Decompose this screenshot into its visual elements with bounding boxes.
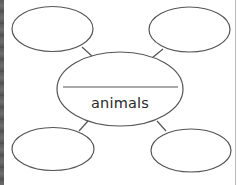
connector-bottom-right (157, 121, 166, 131)
concept-web-diagram (0, 0, 238, 185)
satellite-ellipse-bottom-left[interactable] (12, 128, 94, 171)
satellite-ellipse-top-left[interactable] (12, 7, 93, 52)
connector-bottom-left (79, 121, 88, 131)
connector-top-right (152, 49, 163, 58)
satellite-ellipse-top-right[interactable] (149, 7, 230, 52)
center-label: animals (60, 94, 180, 112)
center-ellipse (57, 52, 183, 126)
satellite-ellipse-bottom-right[interactable] (151, 129, 231, 172)
